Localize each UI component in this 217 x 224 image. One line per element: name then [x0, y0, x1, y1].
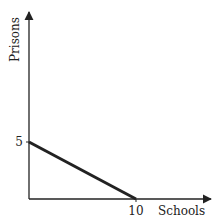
series-line-0 [29, 142, 136, 199]
y-axis-label: Prisons [8, 17, 22, 62]
y-tick-label: 5 [15, 135, 23, 149]
chart: 5 10 Schools Prisons [0, 0, 217, 224]
x-axis-label: Schools [158, 204, 205, 218]
x-tick-label: 10 [128, 204, 143, 218]
